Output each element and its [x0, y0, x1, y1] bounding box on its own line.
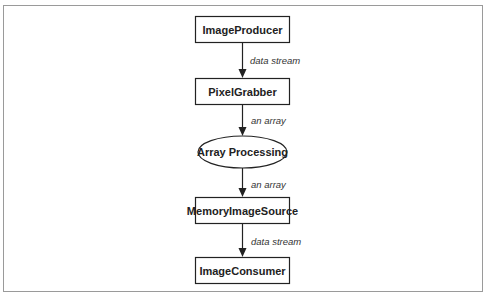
arrowhead-icon [239, 188, 247, 197]
arrowhead-icon [239, 248, 247, 257]
node-image-consumer-label: ImageConsumer [199, 265, 286, 277]
node-array-processing-label: Array Processing [197, 146, 288, 158]
node-pixel-grabber-label: PixelGrabber [208, 86, 277, 98]
node-image-consumer: ImageConsumer [196, 258, 290, 284]
arrowhead-icon [239, 69, 247, 78]
node-memory-image-source: MemoryImageSource [187, 198, 298, 224]
node-memory-image-source-label: MemoryImageSource [187, 205, 298, 217]
edge-data-stream-1: data stream [239, 43, 301, 79]
arrowhead-icon [239, 127, 247, 136]
edge-label: an array [251, 179, 287, 190]
edge-an-array-2: an array [239, 168, 288, 197]
node-image-producer: ImageProducer [196, 17, 290, 43]
edge-label: data stream [250, 55, 300, 66]
node-array-processing: Array Processing [197, 136, 288, 168]
edge-label: an array [251, 115, 287, 126]
edge-label: data stream [251, 236, 301, 247]
node-pixel-grabber: PixelGrabber [196, 79, 290, 105]
edge-an-array-1: an array [239, 105, 288, 137]
flow-diagram: ImageProducer data stream PixelGrabber a… [0, 0, 488, 298]
edge-data-stream-2: data stream [239, 224, 302, 258]
node-image-producer-label: ImageProducer [202, 24, 283, 36]
